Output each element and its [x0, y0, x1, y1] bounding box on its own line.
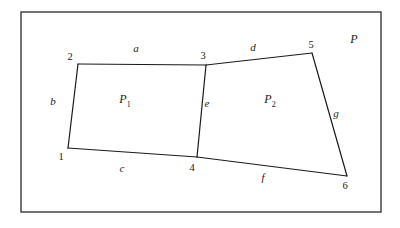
edge-e — [197, 65, 206, 157]
edge-c — [68, 148, 197, 157]
region-p2-subscript: 2 — [272, 100, 276, 109]
region-p1-subscript: 1 — [127, 100, 131, 109]
edge-g — [312, 53, 347, 176]
vertex-label-3: 3 — [200, 51, 205, 62]
edge-label-b: b — [50, 96, 56, 107]
edge-label-a: a — [133, 43, 139, 54]
edge-label-e: e — [205, 98, 210, 109]
vertex-label-6: 6 — [342, 181, 347, 192]
edge-label-f: f — [261, 172, 264, 183]
figure-canvas — [0, 0, 400, 228]
vertex-label-2: 2 — [67, 52, 72, 63]
outer-region-label-p: P — [350, 33, 357, 45]
edge-d — [206, 53, 312, 65]
edge-b — [68, 64, 78, 148]
vertex-label-1: 1 — [58, 152, 63, 163]
region-label-p2: P2 — [264, 93, 275, 108]
edge-f — [197, 157, 347, 176]
vertex-label-5: 5 — [308, 40, 313, 51]
edge-group — [68, 53, 347, 176]
edge-label-g: g — [333, 108, 339, 119]
planar-graph-figure: 1 2 3 4 5 6 a b c d e f g P1 P2 P — [0, 0, 400, 228]
region-label-p1: P1 — [119, 93, 130, 108]
edge-label-d: d — [250, 42, 256, 53]
edge-label-c: c — [120, 163, 125, 174]
vertex-label-4: 4 — [189, 163, 194, 174]
edge-a — [78, 64, 206, 65]
